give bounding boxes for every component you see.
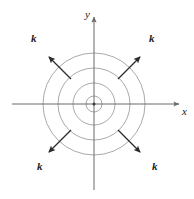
vector-field-figure: y x k k k k — [0, 0, 194, 199]
x-axis-label: x — [182, 106, 187, 117]
y-axis-label: y — [85, 9, 90, 20]
vector-arrow-bottom-right — [118, 130, 140, 152]
vector-label-top-right: k — [149, 33, 155, 44]
figure-canvas — [0, 0, 194, 199]
origin-dot — [93, 103, 96, 106]
vector-label-top-left: k — [31, 33, 37, 44]
vector-label-bottom-right: k — [152, 161, 158, 172]
vector-label-bottom-left: k — [37, 161, 43, 172]
